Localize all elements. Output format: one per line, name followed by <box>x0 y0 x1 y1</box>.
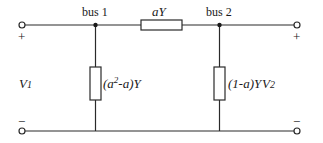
circuit-wiring <box>0 0 323 143</box>
shunt1-label-post: -a)Y <box>118 76 140 91</box>
bus1-node <box>93 23 97 27</box>
shunt1-admittance-label: (a2-a)Y <box>103 77 141 90</box>
port2-voltage-label: V2 <box>262 77 275 90</box>
circuit-diagram: bus 1 bus 2 aY (a2-a)Y (1-a)Y V1 V2 + + … <box>0 0 323 143</box>
port2-plus-sign: + <box>293 30 300 43</box>
shunt1-admittance-box <box>90 67 101 100</box>
port1-voltage-label: V1 <box>19 77 32 90</box>
series-admittance-label: aY <box>152 5 166 18</box>
port2-minus-sign: − <box>293 115 300 128</box>
v2-subscript: 2 <box>270 79 275 90</box>
series-admittance-box <box>141 20 182 30</box>
v1-symbol: V <box>19 76 27 91</box>
terminal-left-top <box>19 22 25 28</box>
v2-symbol: V <box>262 76 270 91</box>
bus1-label: bus 1 <box>82 6 108 18</box>
bus2-node <box>217 23 221 27</box>
shunt2-admittance-label: (1-a)Y <box>228 77 261 90</box>
port1-minus-sign: − <box>18 115 25 128</box>
shunt1-label-pre: (a <box>103 76 114 91</box>
terminal-right-top <box>294 22 300 28</box>
port1-plus-sign: + <box>18 30 25 43</box>
bus2-label: bus 2 <box>206 6 232 18</box>
shunt2-admittance-box <box>214 67 225 100</box>
v1-subscript: 1 <box>27 79 32 90</box>
